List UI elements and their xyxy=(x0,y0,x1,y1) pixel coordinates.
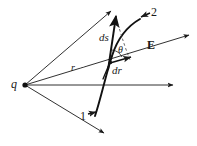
field-line-upper xyxy=(25,11,111,85)
label-point-one: 1 xyxy=(80,110,86,122)
leader-point-two xyxy=(141,13,150,17)
physics-diagram-figure: q r ds dr θ E 1 2 xyxy=(0,0,197,146)
label-radius-r: r xyxy=(71,63,75,73)
r-label-gap-right xyxy=(79,64,86,66)
label-charge-q: q xyxy=(11,78,17,90)
label-point-two: 2 xyxy=(151,6,157,18)
field-line-lower xyxy=(25,85,104,133)
diagram-canvas xyxy=(0,0,197,146)
label-angle-theta: θ xyxy=(118,45,123,55)
label-dr: dr xyxy=(112,65,122,76)
r-label-gap xyxy=(63,69,69,71)
point-charge-q xyxy=(22,82,27,87)
label-field-E: E xyxy=(147,39,155,51)
label-ds: ds xyxy=(99,32,109,43)
